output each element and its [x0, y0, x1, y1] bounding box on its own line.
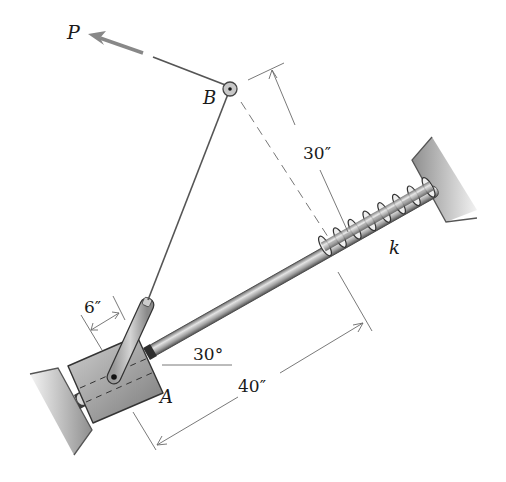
pulley-b: [223, 82, 237, 96]
dimension-40-label: 40″: [238, 376, 266, 396]
reference-dashed-line: [241, 102, 330, 240]
force-arrow-p: [88, 31, 143, 53]
dimension-30-label: 30″: [303, 143, 331, 163]
mechanism-diagram: 30″ 40″ 6″ 30° P B A k: [0, 0, 506, 482]
cord-upper: [153, 57, 228, 86]
force-label-p: P: [66, 21, 81, 43]
spring: [316, 176, 437, 258]
cord-lower: [148, 94, 228, 300]
collar-label-a: A: [158, 386, 173, 407]
angle-label: 30°: [193, 344, 223, 364]
dimension-30: [248, 63, 348, 232]
spring-label-k: k: [389, 237, 400, 258]
pulley-label-b: B: [202, 87, 216, 108]
dimension-6-label: 6″: [84, 297, 101, 317]
